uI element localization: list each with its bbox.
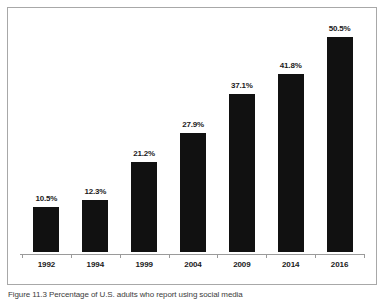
bar[interactable] xyxy=(180,133,206,252)
bar[interactable] xyxy=(82,200,108,252)
bar-group: 37.1%2009 xyxy=(220,6,264,284)
axis-tick xyxy=(217,254,218,258)
category-label: 1999 xyxy=(122,260,166,269)
axis-tick xyxy=(120,254,121,258)
bar[interactable] xyxy=(229,94,255,252)
category-label: 2004 xyxy=(171,260,215,269)
bar[interactable] xyxy=(327,37,353,252)
category-label: 1992 xyxy=(24,260,68,269)
category-label: 1994 xyxy=(73,260,117,269)
bar-group: 27.9%2004 xyxy=(171,6,215,284)
bar-value-label: 37.1% xyxy=(220,81,264,90)
bar[interactable] xyxy=(278,74,304,252)
bar-group: 12.3%1994 xyxy=(73,6,117,284)
bar-group: 50.5%2016 xyxy=(318,6,362,284)
axis-tick xyxy=(22,254,23,258)
bar-value-label: 41.8% xyxy=(269,61,313,70)
bar-group: 10.5%1992 xyxy=(24,6,68,284)
chart-frame: 10.5%199212.3%199421.2%199927.9%200437.1… xyxy=(7,7,377,285)
category-label: 2016 xyxy=(318,260,362,269)
bar[interactable] xyxy=(131,162,157,252)
bar-group: 41.8%2014 xyxy=(269,6,313,284)
axis-tick xyxy=(169,254,170,258)
axis-tick xyxy=(71,254,72,258)
axis-tick xyxy=(364,254,365,258)
category-label: 2009 xyxy=(220,260,264,269)
bar[interactable] xyxy=(33,207,59,252)
bar-value-label: 10.5% xyxy=(24,194,68,203)
bar-value-label: 21.2% xyxy=(122,149,166,158)
category-label: 2014 xyxy=(269,260,313,269)
bar-value-label: 27.9% xyxy=(171,120,215,129)
figure-container: 10.5%199212.3%199421.2%199927.9%200437.1… xyxy=(0,0,386,299)
bar-value-label: 12.3% xyxy=(73,187,117,196)
plot-area: 10.5%199212.3%199421.2%199927.9%200437.1… xyxy=(8,8,376,284)
bar-value-label: 50.5% xyxy=(318,24,362,33)
bar-group: 21.2%1999 xyxy=(122,6,166,284)
axis-tick xyxy=(266,254,267,258)
axis-tick xyxy=(315,254,316,258)
figure-caption: Figure 11.3 Percentage of U.S. adults wh… xyxy=(8,290,378,299)
